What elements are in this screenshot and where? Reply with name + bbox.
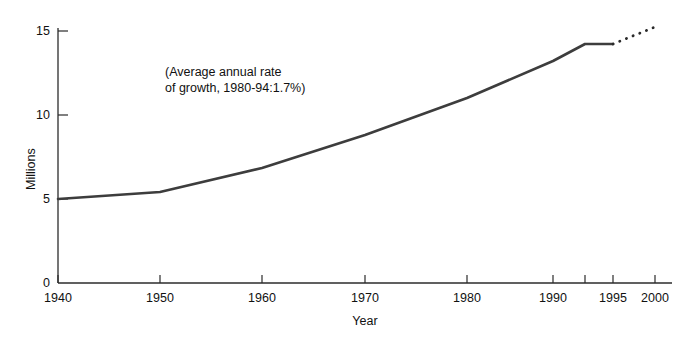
x-tick-label-1990: 1990 bbox=[539, 291, 567, 305]
growth-rate-annotation-line2: of growth, 1980-94:1.7%) bbox=[165, 80, 305, 96]
x-axis-title: Year bbox=[352, 314, 377, 328]
growth-rate-annotation-line1: (Average annual rate bbox=[165, 64, 305, 80]
plot-area bbox=[0, 0, 684, 342]
series-line-observed bbox=[58, 44, 613, 199]
x-tick-label-2000: 2000 bbox=[641, 291, 669, 305]
x-tick-label-1950: 1950 bbox=[146, 291, 174, 305]
y-tick-label-10: 10 bbox=[22, 108, 50, 122]
x-tick-label-1995: 1995 bbox=[599, 291, 627, 305]
x-tick-label-1960: 1960 bbox=[248, 291, 276, 305]
x-tick-label-1940: 1940 bbox=[44, 291, 72, 305]
series-line-projected bbox=[613, 27, 655, 44]
x-tick-label-1970: 1970 bbox=[351, 291, 379, 305]
y-tick-label-5: 5 bbox=[22, 192, 50, 206]
y-axis-ticks bbox=[58, 31, 68, 199]
y-tick-label-0: 0 bbox=[22, 276, 50, 290]
x-tick-label-1980: 1980 bbox=[453, 291, 481, 305]
line-chart: 0 5 10 15 Millions 1940 1950 1960 1970 1… bbox=[0, 0, 684, 342]
growth-rate-annotation: (Average annual rate of growth, 1980-94:… bbox=[165, 64, 305, 96]
y-axis-title: Millions bbox=[24, 148, 38, 190]
y-tick-label-15: 15 bbox=[22, 24, 50, 38]
x-axis-ticks bbox=[58, 275, 655, 283]
